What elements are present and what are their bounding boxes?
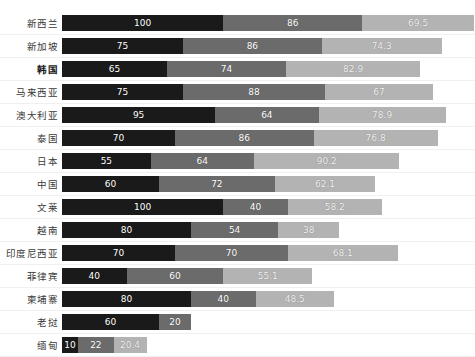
bar-value-label: 69.5 <box>408 19 428 28</box>
bar-row: 马来西亚758867 <box>0 81 475 104</box>
bar-value-label: 68.1 <box>333 249 353 258</box>
bar-value-label: 64 <box>261 111 272 120</box>
bar-segment: 80 <box>62 291 191 307</box>
row-label: 泰国 <box>0 131 62 145</box>
bar-segment: 100 <box>62 15 223 31</box>
row-label: 新西兰 <box>0 16 62 30</box>
row-label: 中国 <box>0 177 62 191</box>
bar-value-label: 40 <box>218 295 229 304</box>
bar-value-label: 54 <box>229 226 240 235</box>
bar-segment: 20.4 <box>114 337 147 353</box>
bar-value-label: 86 <box>287 19 298 28</box>
row-label: 澳大利亚 <box>0 108 62 122</box>
bar-segment: 55 <box>62 153 151 169</box>
bar-row: 菲律宾406055.1 <box>0 265 475 288</box>
bar-row: 中国607262.1 <box>0 173 475 196</box>
bar-segment: 40 <box>62 268 127 284</box>
bar-segment: 65 <box>62 61 167 77</box>
bar-value-label: 100 <box>134 19 151 28</box>
bar-segment: 82.9 <box>286 61 420 77</box>
bar-segment: 60 <box>127 268 224 284</box>
bar-row: 韩国657482.9 <box>0 58 475 81</box>
bar-track: 758674.3 <box>62 38 475 54</box>
bar-segment: 64 <box>151 153 254 169</box>
bar-track: 657482.9 <box>62 61 475 77</box>
row-label: 越南 <box>0 223 62 237</box>
bar-value-label: 70 <box>113 134 124 143</box>
bar-track: 556490.2 <box>62 153 475 169</box>
bar-track: 805438 <box>62 222 475 238</box>
bar-value-label: 74 <box>221 65 232 74</box>
row-label: 日本 <box>0 154 62 168</box>
bar-segment: 86 <box>175 130 314 146</box>
bar-row: 印度尼西亚707068.1 <box>0 242 475 265</box>
bar-value-label: 95 <box>133 111 144 120</box>
bar-rows-container: 新西兰1008669.5新加坡758674.3韩国657482.9马来西亚758… <box>0 12 475 357</box>
bar-row: 澳大利亚956478.9 <box>0 104 475 127</box>
bar-segment: 75 <box>62 84 183 100</box>
bar-segment: 68.1 <box>288 245 398 261</box>
bar-value-label: 60 <box>105 180 116 189</box>
bar-value-label: 40 <box>89 272 100 281</box>
bar-track: 804048.5 <box>62 291 475 307</box>
bar-segment: 100 <box>62 199 223 215</box>
bar-track: 406055.1 <box>62 268 475 284</box>
bar-value-label: 10 <box>64 341 75 350</box>
bar-value-label: 75 <box>117 42 128 51</box>
bar-value-label: 70 <box>113 249 124 258</box>
bar-track: 102220.4 <box>62 337 475 353</box>
bar-segment: 69.5 <box>362 15 474 31</box>
bar-segment: 20 <box>159 314 191 330</box>
bar-row: 文莱1004058.2 <box>0 196 475 219</box>
bar-value-label: 20 <box>169 318 180 327</box>
bar-value-label: 86 <box>247 42 258 51</box>
bar-value-label: 90.2 <box>317 157 337 166</box>
bar-track: 607262.1 <box>62 176 475 192</box>
bar-track: 1004058.2 <box>62 199 475 215</box>
bar-value-label: 100 <box>134 203 151 212</box>
bar-value-label: 62.1 <box>315 180 335 189</box>
bar-value-label: 22 <box>90 341 101 350</box>
bar-value-label: 72 <box>211 180 222 189</box>
bar-segment: 60 <box>62 176 159 192</box>
row-label: 缅甸 <box>0 338 62 352</box>
bar-segment: 86 <box>223 15 362 31</box>
bar-segment: 90.2 <box>254 153 400 169</box>
bar-value-label: 80 <box>121 226 132 235</box>
row-label: 印度尼西亚 <box>0 246 62 260</box>
bar-track: 758867 <box>62 84 475 100</box>
bar-value-label: 58.2 <box>325 203 345 212</box>
bar-value-label: 38 <box>303 226 314 235</box>
bar-value-label: 60 <box>105 318 116 327</box>
bar-value-label: 48.5 <box>285 295 305 304</box>
bar-segment: 48.5 <box>256 291 334 307</box>
bar-segment: 75 <box>62 38 183 54</box>
bar-value-label: 78.9 <box>372 111 392 120</box>
bar-value-label: 80 <box>121 295 132 304</box>
bar-value-label: 40 <box>250 203 261 212</box>
bar-segment: 72 <box>159 176 275 192</box>
row-label: 马来西亚 <box>0 85 62 99</box>
bar-segment: 70 <box>175 245 288 261</box>
bar-row: 新加坡758674.3 <box>0 35 475 58</box>
bar-track: 6020 <box>62 314 475 330</box>
bar-segment: 78.9 <box>319 107 446 123</box>
bar-segment: 55.1 <box>223 268 312 284</box>
bar-segment: 76.8 <box>314 130 438 146</box>
bar-segment: 40 <box>191 291 256 307</box>
bar-segment: 64 <box>215 107 318 123</box>
bar-segment: 60 <box>62 314 159 330</box>
bar-segment: 54 <box>191 222 278 238</box>
bar-value-label: 67 <box>373 88 384 97</box>
bar-track: 708676.8 <box>62 130 475 146</box>
bar-segment: 38 <box>278 222 339 238</box>
bar-row: 老挝6020 <box>0 311 475 334</box>
row-label: 新加坡 <box>0 39 62 53</box>
row-label: 老挝 <box>0 315 62 329</box>
bar-row: 越南805438 <box>0 219 475 242</box>
bar-value-label: 55.1 <box>258 272 278 281</box>
bar-row: 新西兰1008669.5 <box>0 12 475 35</box>
row-label: 菲律宾 <box>0 269 62 283</box>
bar-segment: 95 <box>62 107 215 123</box>
bar-segment: 22 <box>78 337 113 353</box>
